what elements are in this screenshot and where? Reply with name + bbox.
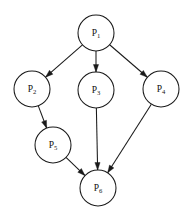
node-p5[interactable]: P5 [35,127,71,163]
arrow-head-icon [95,162,100,170]
edge-p1-to-p2 [46,45,83,77]
graph-diagram: P1P2P3P4P5P6 [0,0,192,220]
node-label-subscript: 2 [33,88,36,95]
node-label-subscript: 1 [97,32,100,39]
arrow-head-icon [42,120,47,128]
node-p2[interactable]: P2 [14,71,50,107]
edge-p1-to-p3 [93,51,98,72]
node-p1[interactable]: P1 [78,15,114,51]
edge-p2-to-p5 [38,106,46,128]
node-p4[interactable]: P4 [143,71,179,107]
arrow-head-icon [93,65,98,73]
edge-p5-to-p6 [66,157,85,175]
node-p6[interactable]: P6 [80,170,116,206]
graph-canvas: P1P2P3P4P5P6 [0,0,192,220]
edge-p1-to-p4 [110,45,148,78]
edge-line [96,108,97,170]
edge-p3-to-p6 [95,108,100,170]
edge-p4-to-p6 [108,104,152,173]
edge-line [108,104,152,173]
arrow-head-icon [108,165,114,173]
node-p3[interactable]: P3 [78,72,114,108]
